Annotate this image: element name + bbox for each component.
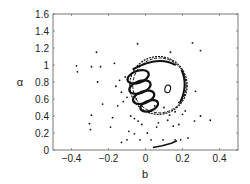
data-point (209, 119, 211, 121)
data-point (97, 81, 99, 83)
data-point (96, 51, 98, 53)
data-point (114, 62, 116, 64)
data-point (117, 105, 119, 107)
data-point (200, 50, 202, 52)
data-point (134, 118, 136, 120)
data-point (182, 113, 184, 115)
data-point (143, 102, 145, 104)
data-point (130, 115, 132, 117)
data-point (141, 109, 143, 111)
data-point (150, 139, 152, 141)
data-point (110, 126, 112, 128)
data-point (91, 114, 93, 116)
data-point (126, 139, 128, 141)
data-point (139, 139, 141, 141)
x-tick-label: −0.2 (99, 153, 119, 164)
data-point (100, 66, 102, 68)
x-tick-label: 0 (143, 153, 149, 164)
data-point (156, 126, 158, 128)
y-tick-label: 0 (43, 145, 49, 156)
data-point (158, 122, 160, 124)
data-point (89, 123, 91, 125)
data-point (183, 94, 185, 96)
data-point (126, 96, 128, 98)
y-tick-label: 1 (43, 60, 49, 71)
data-point (141, 124, 143, 126)
data-point (122, 101, 124, 103)
data-point (135, 98, 137, 100)
y-tick-label: 1.6 (35, 9, 49, 20)
data-point (195, 90, 197, 92)
data-point (115, 85, 117, 87)
data-point (174, 111, 176, 113)
data-point (124, 76, 126, 78)
data-point (121, 141, 123, 143)
x-tick-label: 0.4 (213, 153, 227, 164)
data-point (169, 114, 171, 116)
data-point (121, 91, 123, 93)
data-point (174, 139, 176, 141)
data-point (178, 102, 180, 104)
data-point (194, 120, 196, 122)
data-point (76, 65, 78, 67)
y-tick-label: 0.6 (35, 94, 49, 105)
x-tick-label: 0.2 (176, 153, 190, 164)
data-point (178, 124, 180, 126)
data-point (91, 66, 93, 68)
y-tick-label: 0.2 (35, 128, 49, 139)
data-point (187, 137, 189, 139)
y-axis-label: α (17, 76, 24, 88)
data-point (172, 125, 174, 127)
data-point (163, 107, 165, 109)
data-point (192, 42, 194, 44)
y-tick-label: 0.8 (35, 77, 49, 88)
data-point (167, 119, 169, 121)
data-point (112, 117, 114, 119)
x-tick-label: −0.4 (62, 153, 82, 164)
data-point (77, 71, 79, 73)
data-point (134, 133, 136, 135)
data-point (154, 105, 156, 107)
y-tick-label: 0.4 (35, 111, 49, 122)
data-point (128, 130, 130, 132)
data-point (148, 112, 150, 114)
y-tick-label: 1.2 (35, 43, 49, 54)
data-point (137, 120, 139, 122)
data-point (119, 79, 121, 81)
data-point (90, 129, 92, 131)
data-point (162, 139, 164, 141)
data-point (102, 103, 104, 105)
data-point (200, 115, 202, 117)
plot-area (53, 14, 238, 150)
y-tick-label: 1.4 (35, 26, 49, 37)
data-point (137, 43, 139, 45)
data-point (184, 110, 186, 112)
data-point (146, 132, 148, 134)
data-point (180, 139, 182, 141)
scatter-chart: −0.4−0.200.20.400.20.40.60.811.21.41.6 b… (0, 0, 250, 184)
data-point (170, 51, 172, 53)
x-axis-label: b (142, 168, 148, 180)
